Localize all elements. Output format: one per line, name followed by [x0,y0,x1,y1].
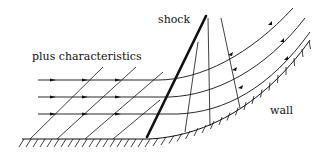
plus-characteristics-label: plus characteristics [32,50,142,63]
wall-label: wall [270,104,293,117]
plus-characteristics [30,67,163,139]
diagram-canvas: plus characteristics shock wall [0,0,326,158]
shock-label: shock [158,13,190,26]
shock-line [147,16,206,137]
characteristics-after-shock [185,18,240,132]
